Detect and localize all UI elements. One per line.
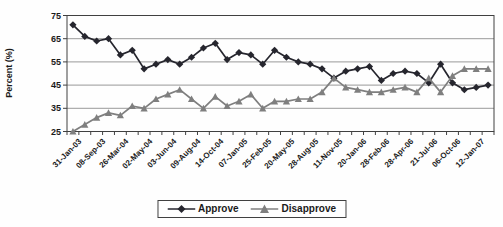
disapprove-marker [212, 93, 219, 100]
y-tick-label: 55 [51, 57, 61, 67]
legend-item-disapprove: Disapprove [251, 203, 336, 214]
approve-marker-icon [167, 204, 195, 214]
disapprove-marker-icon [251, 204, 279, 214]
y-tick-label: 65 [51, 34, 61, 44]
legend-label-approve: Approve [198, 203, 239, 214]
y-tick-label: 35 [51, 103, 61, 113]
approve-marker [342, 68, 349, 75]
disapprove-marker [235, 98, 242, 105]
legend-label-disapprove: Disapprove [282, 203, 336, 214]
approve-marker [484, 82, 491, 89]
approve-marker [461, 86, 468, 93]
approve-marker [390, 70, 397, 77]
approve-marker [401, 68, 408, 75]
disapprove-marker [449, 72, 456, 79]
approve-marker [295, 58, 302, 65]
approve-marker [354, 65, 361, 72]
chart-figure: Percent (%) 253545556575 31-Jan-0308-Sep… [0, 0, 503, 227]
disapprove-line [73, 69, 488, 132]
y-tick-label: 75 [51, 11, 61, 21]
legend-item-approve: Approve [167, 203, 239, 214]
disapprove-marker [176, 86, 183, 93]
disapprove-marker [247, 91, 254, 98]
y-tick-label: 25 [51, 127, 61, 137]
approve-marker [283, 54, 290, 61]
plot-area: 253545556575 [0, 0, 503, 227]
legend: Approve Disapprove [157, 200, 346, 218]
approve-line [73, 25, 488, 90]
y-tick-label: 45 [51, 80, 61, 90]
disapprove-marker [81, 121, 88, 128]
approve-marker [235, 49, 242, 56]
